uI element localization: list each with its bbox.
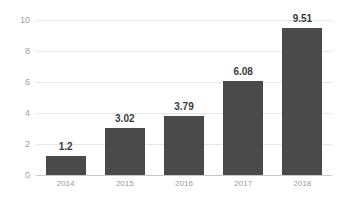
y-axis-tick-6: 6 <box>8 78 30 87</box>
bar-slot-2018: 9.51 <box>273 20 332 175</box>
bar-2016[interactable] <box>164 116 204 175</box>
y-axis-tick-4: 4 <box>8 109 30 118</box>
x-axis-label-2015: 2015 <box>116 180 134 188</box>
bars-layer: 1.2 3.02 3.79 6.08 9.51 <box>36 20 332 175</box>
bar-2015[interactable] <box>105 128 145 175</box>
x-axis-line <box>36 175 332 176</box>
bar-2014[interactable] <box>46 156 86 175</box>
bar-2017[interactable] <box>223 81 263 175</box>
bar-value-2017: 6.08 <box>233 67 252 77</box>
bar-chart: 10 8 6 4 2 0 1.2 3.02 3.79 6.08 9.51 201… <box>0 0 348 201</box>
x-axis-label-2016: 2016 <box>175 180 193 188</box>
y-axis-tick-8: 8 <box>8 47 30 56</box>
bar-value-2018: 9.51 <box>293 14 312 24</box>
x-axis-label-2017: 2017 <box>234 180 252 188</box>
bar-2018[interactable] <box>282 28 322 175</box>
bar-value-2016: 3.79 <box>174 102 193 112</box>
x-axis-label-2014: 2014 <box>57 180 75 188</box>
bar-slot-2015: 3.02 <box>95 20 154 175</box>
bar-value-2014: 1.2 <box>59 142 73 152</box>
y-axis-tick-2: 2 <box>8 140 30 149</box>
bar-value-2015: 3.02 <box>115 114 134 124</box>
y-axis-tick-0: 0 <box>8 171 30 180</box>
bar-slot-2017: 6.08 <box>214 20 273 175</box>
bar-slot-2016: 3.79 <box>154 20 213 175</box>
x-axis-label-2018: 2018 <box>293 180 311 188</box>
y-axis-tick-10: 10 <box>8 16 30 25</box>
bar-slot-2014: 1.2 <box>36 20 95 175</box>
